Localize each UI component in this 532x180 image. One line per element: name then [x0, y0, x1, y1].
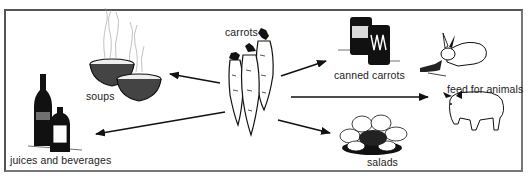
arrow-to-juices [96, 112, 225, 134]
juices-label: juices and beverages [10, 154, 111, 166]
salads-label: salads [367, 156, 398, 168]
soups-icon [90, 8, 161, 101]
salad-icon [340, 115, 407, 155]
rabbit-icon [420, 33, 486, 76]
feed-label: feed for animals [447, 83, 523, 95]
canned-carrots-icon [338, 17, 400, 65]
arrow-to-salads [278, 120, 330, 133]
arrow-to-soups [170, 74, 220, 83]
soups-label: soups [86, 90, 115, 102]
canned-carrots-label: canned carrots [334, 69, 405, 81]
carrots-icon [229, 28, 273, 135]
pig-icon [443, 90, 504, 130]
juice-bottles-icon [28, 74, 82, 152]
carrots-label: carrots [225, 26, 258, 38]
arrow-to-canned [281, 61, 326, 76]
